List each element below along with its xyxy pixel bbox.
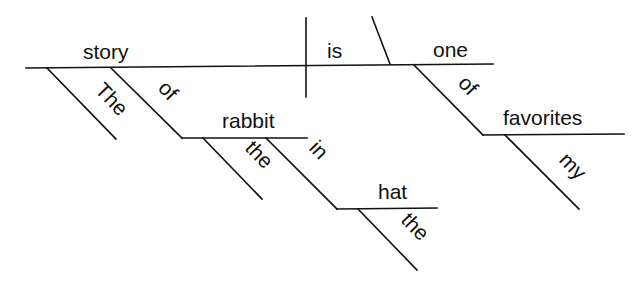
verb-complement-divider — [372, 17, 390, 64]
word-favorites: favorites — [503, 106, 582, 129]
word-of-right: of — [454, 71, 483, 100]
word-the-rabbit: the — [241, 136, 278, 173]
main-baseline — [26, 64, 493, 68]
word-of-left: of — [154, 76, 183, 105]
word-in: in — [305, 136, 333, 164]
word-story: story — [83, 40, 129, 63]
word-one: one — [433, 38, 468, 61]
word-hat: hat — [378, 180, 407, 203]
word-is: is — [327, 39, 342, 62]
word-my: my — [555, 148, 591, 184]
word-rabbit: rabbit — [222, 109, 275, 132]
sentence-diagram: story is one rabbit hat favorites The of… — [0, 0, 638, 285]
word-the-hat: the — [397, 208, 434, 245]
hat-line — [337, 208, 437, 209]
